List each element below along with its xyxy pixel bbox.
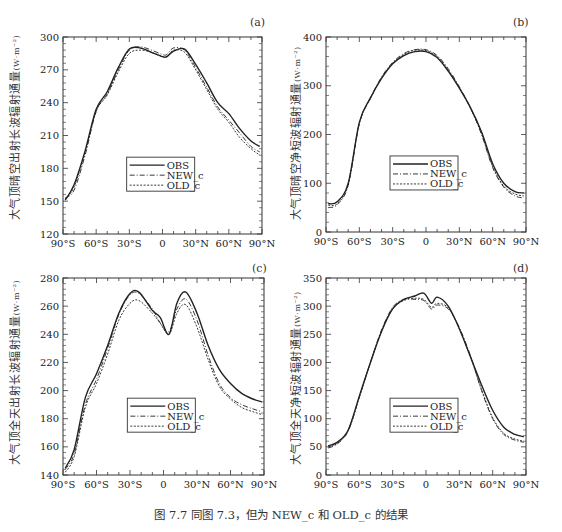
- x-tick-label: 30°S: [117, 238, 142, 249]
- series-line-obs: [65, 290, 262, 468]
- y-tick-label: 180: [40, 413, 59, 424]
- x-tick-label: 0: [159, 238, 165, 249]
- plot-frame: [326, 37, 526, 232]
- y-tick-label: 220: [40, 357, 59, 368]
- x-tick-label: 90°N: [513, 479, 540, 490]
- x-tick-label: 90°S: [51, 238, 76, 249]
- x-tick-label: 0: [423, 479, 429, 490]
- y-tick-label: 260: [40, 301, 59, 312]
- chart-svg: 90°S60°S30°S030°N60°N90°N140160180200220…: [0, 250, 281, 500]
- y-tick-label: 300: [40, 32, 59, 43]
- x-tick-label: 30°S: [380, 479, 405, 490]
- y-tick-label: 120: [40, 229, 59, 240]
- x-tick-label: 60°S: [347, 479, 372, 490]
- y-tick-label: 240: [40, 329, 59, 340]
- legend: OBSNEW_cOLD_c: [127, 398, 204, 433]
- y-tick-label: 160: [40, 441, 59, 452]
- y-tick-label: 150: [40, 196, 59, 207]
- y-tick-label: 180: [40, 163, 59, 174]
- series-line-new-c: [65, 292, 262, 469]
- x-tick-label: 30°S: [380, 236, 405, 247]
- panel-b: (b) 大气顶晴空净短波辐射通量(W·m⁻²) 90°S60°S30°S030°…: [281, 0, 562, 250]
- y-tick-label: 100: [303, 178, 322, 189]
- x-tick-label: 0: [160, 479, 166, 490]
- x-tick-label: 30°N: [446, 479, 473, 490]
- legend-label: OLD_c: [430, 421, 464, 433]
- legend: OBSNEW_cOLD_c: [390, 398, 467, 433]
- legend-label: OLD_c: [430, 178, 464, 190]
- y-tick-label: 300: [303, 80, 322, 91]
- panel-c: (c) 大气顶全天出射长波辐射通量(W·m⁻²) 90°S60°S30°S030…: [0, 250, 281, 500]
- x-tick-label: 30°N: [182, 238, 209, 249]
- y-tick-label: 0: [316, 227, 322, 238]
- x-tick-label: 90°N: [251, 479, 278, 490]
- x-tick-label: 60°N: [217, 479, 244, 490]
- legend-label: OLD_c: [167, 180, 201, 192]
- x-tick-label: 60°N: [479, 479, 506, 490]
- y-tick-label: 140: [40, 470, 59, 481]
- panel-d: (d) 大气顶全天净短波辐射通量(W·m⁻²) 90°S60°S30°S030°…: [281, 250, 562, 500]
- y-tick-label: 270: [40, 64, 59, 75]
- x-tick-label: 60°S: [84, 479, 109, 490]
- x-tick-label: 90°S: [51, 479, 76, 490]
- y-tick-label: 200: [40, 385, 59, 396]
- x-tick-label: 60°N: [479, 236, 506, 247]
- y-tick-label: 240: [40, 97, 59, 108]
- y-tick-label: 200: [303, 357, 322, 368]
- x-tick-label: 60°S: [347, 236, 372, 247]
- legend-label: OLD_c: [167, 421, 201, 433]
- chart-svg: 90°S60°S30°S030°N60°N90°N120150180210240…: [0, 0, 281, 250]
- figure-caption: 图 7.7 同图 7.3，但为 NEW_c 和 OLD_c 的结果: [0, 506, 562, 522]
- y-tick-label: 350: [303, 273, 322, 284]
- x-tick-label: 60°S: [84, 238, 109, 249]
- y-tick-label: 210: [40, 130, 59, 141]
- y-tick-label: 100: [303, 413, 322, 424]
- chart-svg: 90°S60°S30°S030°N60°N90°N050100150200250…: [281, 250, 562, 500]
- y-tick-label: 250: [303, 329, 322, 340]
- x-tick-label: 90°S: [314, 479, 339, 490]
- y-tick-label: 150: [303, 385, 322, 396]
- plot-frame: [326, 278, 526, 475]
- plot-frame: [63, 278, 264, 475]
- plot-frame: [63, 37, 262, 234]
- x-tick-label: 30°N: [446, 236, 473, 247]
- legend: OBSNEW_cOLD_c: [127, 157, 204, 192]
- x-tick-label: 90°N: [513, 236, 540, 247]
- chart-svg: 90°S60°S30°S030°N60°N90°N0100200300400OB…: [281, 0, 562, 250]
- y-tick-label: 300: [303, 301, 322, 312]
- y-tick-label: 200: [303, 129, 322, 140]
- legend: OBSNEW_cOLD_c: [390, 156, 467, 191]
- x-tick-label: 90°N: [249, 238, 276, 249]
- y-tick-label: 0: [316, 470, 322, 481]
- x-tick-label: 30°S: [118, 479, 143, 490]
- panel-a: (a) 大气顶晴空出射长波辐射通量(W·m⁻²) 90°S60°S30°S030…: [0, 0, 281, 250]
- x-tick-label: 90°S: [314, 236, 339, 247]
- x-tick-label: 60°N: [216, 238, 243, 249]
- x-tick-label: 30°N: [184, 479, 211, 490]
- y-tick-label: 50: [309, 441, 322, 452]
- x-tick-label: 0: [423, 236, 429, 247]
- y-tick-label: 400: [303, 32, 322, 43]
- y-tick-label: 280: [40, 273, 59, 284]
